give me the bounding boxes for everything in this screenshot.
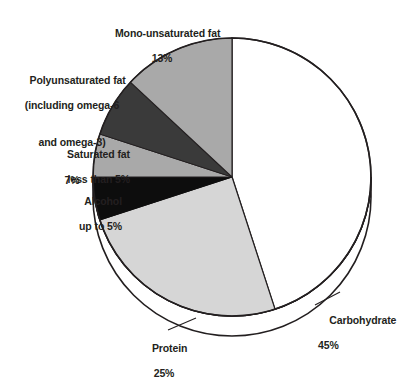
slice-label-polyunsaturated-fat-name-line2: (including omega-6 — [6, 99, 138, 111]
slice-label-alcohol-value: up to 5% — [6, 220, 122, 232]
slice-label-carbohydrate-name: Carbohydrate — [329, 314, 396, 326]
slice-label-alcohol-name: Alcohol — [84, 195, 122, 207]
slice-label-protein: Protein 25% — [112, 330, 216, 381]
slice-label-carbohydrate-value: 45% — [318, 339, 418, 351]
slice-label-mono-unsaturated-fat-name: Mono-unsaturated fat — [115, 27, 220, 39]
slice-label-protein-value: 25% — [112, 367, 216, 379]
slice-label-protein-name: Protein — [152, 342, 187, 354]
slice-label-carbohydrate: Carbohydrate 45% — [318, 302, 418, 376]
slice-label-polyunsaturated-fat-name-line1: Polyunsaturated fat — [30, 74, 126, 86]
slice-label-alcohol: Alcohol up to 5% — [6, 183, 122, 257]
slice-label-saturated-fat-name: Saturated fat — [67, 148, 130, 160]
